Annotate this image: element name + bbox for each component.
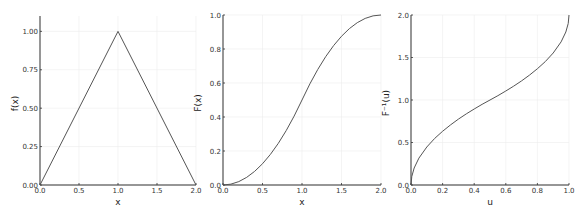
y-axis-label: f(x) (10, 96, 20, 112)
y-tick-label: 0.5 (398, 139, 409, 147)
x-tick-label: 0.2 (437, 187, 448, 195)
x-tick-label: 0.5 (257, 187, 268, 195)
y-tick-label: 1.00 (22, 28, 38, 36)
x-tick-label: 2.0 (190, 187, 201, 195)
x-tick-label: 1.0 (563, 187, 574, 195)
x-tick-label: 0.8 (532, 187, 543, 195)
x-axis-label: u (487, 197, 493, 207)
x-axis-label: x (299, 197, 305, 207)
y-axis-label: F(x) (193, 94, 203, 112)
x-tick-label: 2.0 (375, 187, 386, 195)
y-tick-label: 2.0 (398, 12, 409, 20)
inverse-cdf-panel: 0.00.20.40.60.81.00.00.51.01.52.0uF⁻¹(u) (381, 12, 575, 208)
x-tick-label: 0.5 (73, 187, 84, 195)
figure: 0.00.51.01.52.00.000.250.500.751.00xf(x)… (0, 0, 585, 212)
y-tick-label: 0.8 (210, 46, 221, 54)
pdf-panel: 0.00.51.01.52.00.000.250.500.751.00xf(x) (10, 16, 202, 207)
y-tick-label: 0.0 (210, 182, 221, 190)
y-tick-label: 0.2 (210, 148, 221, 156)
y-tick-label: 0.50 (22, 105, 38, 113)
x-tick-label: 1.5 (151, 187, 162, 195)
y-axis-label: F⁻¹(u) (381, 90, 391, 116)
y-tick-label: 0.25 (22, 143, 38, 151)
y-tick-label: 0.75 (22, 66, 38, 74)
x-tick-label: 0.6 (500, 187, 512, 195)
y-tick-label: 0.00 (22, 182, 38, 190)
y-tick-label: 1.0 (210, 12, 221, 20)
x-tick-label: 1.0 (112, 187, 123, 195)
y-tick-label: 1.5 (398, 54, 409, 62)
cdf-panel: 0.00.51.01.52.00.00.20.40.60.81.0xF(x) (193, 12, 387, 208)
x-tick-label: 1.5 (336, 187, 347, 195)
y-tick-label: 0.4 (210, 114, 222, 122)
y-tick-label: 0.6 (210, 80, 222, 88)
y-tick-label: 0.0 (398, 182, 409, 190)
x-tick-label: 1.0 (296, 187, 307, 195)
y-tick-label: 1.0 (398, 97, 409, 105)
x-axis-label: x (115, 197, 121, 207)
x-tick-label: 0.4 (469, 187, 481, 195)
